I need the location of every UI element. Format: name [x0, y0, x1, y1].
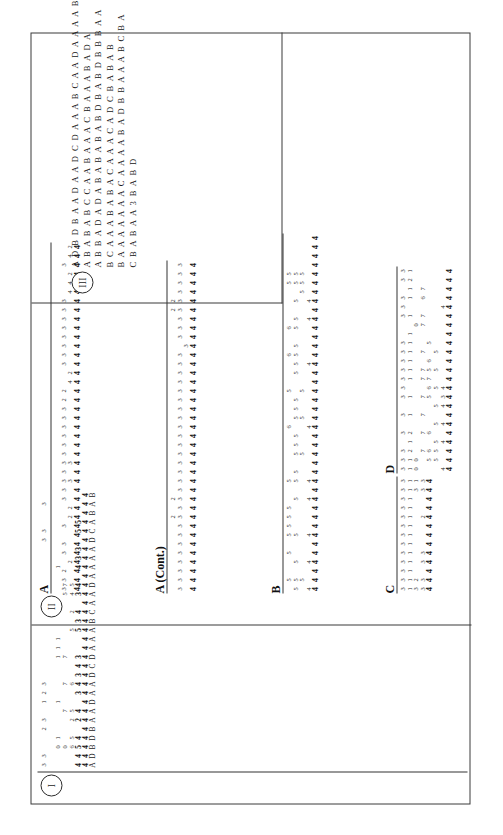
data-column: 3 4	[170, 576, 198, 585]
data-cell: 1	[54, 644, 61, 653]
letter-cell: A	[89, 635, 97, 644]
data-cell: 4	[189, 416, 197, 420]
data-column: 3 4	[170, 558, 198, 567]
data-cell: 4	[312, 398, 320, 402]
data-column: 3 4	[170, 387, 198, 396]
data-column: 23 4	[170, 513, 198, 522]
data-column: 3 4	[170, 333, 198, 342]
letter-cell: B	[89, 491, 97, 500]
data-column: 3 4	[170, 540, 198, 549]
data-cell	[61, 725, 68, 734]
data-cell: 7	[61, 653, 68, 662]
letter-cell: A	[89, 689, 97, 698]
letter-cell: A	[89, 572, 97, 581]
data-column: 3 4	[170, 414, 198, 423]
data-column: 6 44	[286, 423, 320, 432]
panel-A-rule	[51, 243, 52, 594]
letter-cell: A	[89, 599, 97, 608]
data-column: 555 4	[286, 270, 320, 279]
data-column: 5 4	[286, 504, 320, 513]
data-column: 3 4	[170, 522, 198, 531]
letter-cell: A	[89, 626, 97, 635]
data-column: 55 4	[286, 450, 320, 459]
panel-B-header: B	[270, 234, 283, 594]
data-cell: 4	[73, 434, 81, 438]
data-cell	[54, 617, 61, 626]
data-cell	[61, 617, 68, 626]
data-cell	[40, 743, 47, 752]
page-frame: I 33 23 123 33 3 01 1 111 1 1 0 7 7 7 57…	[31, 33, 471, 805]
data-cell: 4	[312, 344, 320, 348]
data-column: 3 4	[54, 405, 82, 414]
data-cell: 4	[446, 377, 454, 381]
data-cell: 4	[312, 380, 320, 384]
letter-cell: A	[89, 590, 97, 599]
panel-A-cont-header: A (Cont.)	[154, 261, 167, 594]
data-cell: 4	[73, 569, 81, 573]
data-cell: 4	[312, 533, 320, 537]
data-cell: 4	[446, 440, 454, 444]
data-column: 4	[286, 306, 320, 315]
data-column: 3 4	[170, 486, 198, 495]
data-cell: 4	[446, 431, 454, 435]
data-column: 3 4	[170, 288, 198, 297]
panel-A-cont-grid: 3 4 3 4 3 4 3 4 3 4 3 4 3 4 3 423 4 3 42…	[170, 261, 198, 594]
data-cell	[40, 617, 47, 626]
data-cell: 4	[189, 578, 197, 582]
data-column: 3 4	[54, 315, 82, 324]
data-column: 24	[54, 504, 82, 513]
data-cell	[61, 716, 68, 725]
letter-cell: C	[89, 608, 97, 617]
data-cell: 4	[73, 362, 81, 366]
data-column: 3 4	[54, 297, 82, 306]
data-cell: 4	[312, 542, 320, 546]
data-cell: 4	[73, 371, 81, 375]
section-3-row: B C A A A B A B A C A A A C A D C B A B …	[104, 43, 116, 268]
data-cell	[61, 626, 68, 635]
data-cell: 4	[312, 578, 320, 582]
data-cell: 4	[189, 461, 197, 465]
data-cell: 4	[189, 299, 197, 303]
data-cell: 4	[189, 362, 197, 366]
data-column: 23 4	[170, 297, 198, 306]
data-cell: 4	[446, 368, 454, 372]
data-cell	[47, 626, 54, 635]
data-cell	[47, 734, 54, 743]
letter-cell: D	[89, 581, 97, 590]
data-cell	[40, 644, 47, 653]
data-cell: 4	[446, 332, 454, 336]
data-cell: 1	[40, 698, 47, 707]
data-column: 3 4	[54, 324, 82, 333]
letter-cell: D	[89, 653, 97, 662]
data-column: 3 4	[170, 504, 198, 513]
data-cell: 4	[426, 524, 434, 528]
data-cell: 4	[189, 407, 197, 411]
data-column: 5 44	[286, 297, 320, 306]
data-cell: 4	[312, 497, 320, 501]
data-column: 31334	[400, 486, 434, 495]
panel-rule-section-1	[38, 772, 468, 773]
data-cell: 4	[312, 560, 320, 564]
data-column: 55 44	[286, 477, 320, 486]
data-column: 3 4	[54, 360, 82, 369]
data-cell: 4	[73, 488, 81, 492]
data-cell: 4	[73, 587, 81, 591]
data-column: 31 4	[400, 267, 454, 276]
letter-cell: A	[89, 563, 97, 572]
data-column: 3 4	[170, 531, 198, 540]
data-cell: 4	[73, 578, 81, 582]
data-cell	[47, 653, 54, 662]
data-column: 310 44	[400, 465, 454, 474]
data-cell: 4	[426, 506, 434, 510]
data-column: 3 4	[54, 423, 82, 432]
panel-section-1: 33 23 123 33 3 01 1 111 1 1 0 7 7 7 57 6…	[38, 629, 468, 773]
letter-cell: D	[89, 752, 97, 761]
data-cell	[61, 698, 68, 707]
data-cell: 7	[61, 707, 68, 716]
data-cell: 4	[73, 299, 81, 303]
data-column: 3 4	[170, 369, 198, 378]
data-column: 32 76 4	[400, 429, 454, 438]
panel-D-rule	[397, 267, 398, 474]
data-cell: 4	[189, 587, 197, 591]
data-column: 31 34	[400, 549, 434, 558]
